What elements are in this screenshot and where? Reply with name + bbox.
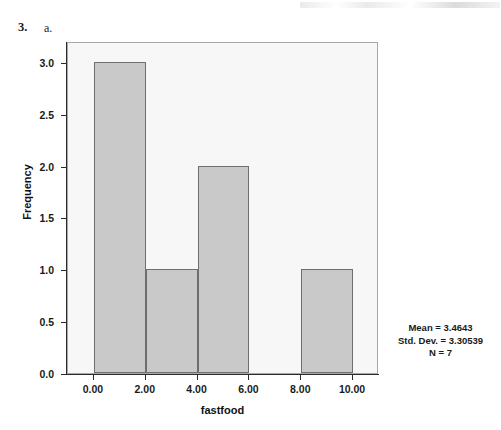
x-axis-tick <box>248 375 249 380</box>
histogram-bar <box>301 269 353 373</box>
histogram-bar <box>198 166 250 374</box>
y-axis-tick-label: 2.5 <box>20 109 54 121</box>
y-axis-tick-label: 0.0 <box>20 368 54 380</box>
histogram-bar <box>94 62 146 373</box>
stat-n: N = 7 <box>382 347 499 360</box>
y-axis-tick-label: 1.0 <box>20 264 54 276</box>
x-axis-tick-label: 10.00 <box>322 383 382 395</box>
plot-panel <box>67 42 378 374</box>
histogram-bar <box>146 269 198 373</box>
y-axis-tick <box>61 63 66 64</box>
y-axis-tick-label: 3.0 <box>20 57 54 69</box>
x-axis-tick <box>300 375 301 380</box>
bars-layer <box>68 43 377 373</box>
histogram-figure: 0.00.51.01.52.02.53.0 0.002.004.006.008.… <box>0 0 501 430</box>
statistics-annotation: Mean = 3.4643 Std. Dev. = 3.30539 N = 7 <box>382 322 499 360</box>
x-axis-line <box>66 374 379 375</box>
y-axis-tick <box>61 218 66 219</box>
y-axis-tick <box>61 322 66 323</box>
y-axis-line <box>66 42 67 375</box>
y-axis-tick <box>61 167 66 168</box>
stat-std-dev: Std. Dev. = 3.30539 <box>382 335 499 348</box>
y-axis-title: Frequency <box>21 144 33 240</box>
y-axis-tick <box>61 374 66 375</box>
y-axis-tick-label: 0.5 <box>20 316 54 328</box>
x-axis-tick <box>197 375 198 380</box>
x-axis-tick <box>145 375 146 380</box>
x-axis-tick <box>93 375 94 380</box>
x-axis-title: fastfood <box>67 404 378 416</box>
y-axis-tick <box>61 270 66 271</box>
y-axis-tick <box>61 115 66 116</box>
x-axis-tick <box>352 375 353 380</box>
stat-mean: Mean = 3.4643 <box>382 322 499 335</box>
